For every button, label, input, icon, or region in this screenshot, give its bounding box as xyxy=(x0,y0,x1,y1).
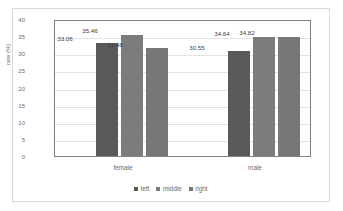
bar-female-middle[interactable] xyxy=(121,35,143,157)
category-label-male: male xyxy=(215,164,295,171)
y-axis-tick: 10 xyxy=(1,120,25,126)
legend-item-middle[interactable]: middle xyxy=(156,185,181,192)
plot-area xyxy=(54,20,311,157)
legend-item-left[interactable]: left xyxy=(134,185,149,192)
legend-label: middle xyxy=(163,185,182,192)
bar-female-left[interactable] xyxy=(96,43,118,156)
legend-label: right xyxy=(195,185,207,192)
y-axis-tick: 20 xyxy=(1,86,25,92)
bar-value-label: 30.55 xyxy=(180,44,214,51)
bar-value-label: 31.48 xyxy=(98,41,132,48)
bar-male-middle[interactable] xyxy=(253,37,275,156)
bar-value-label: 35.46 xyxy=(73,27,107,34)
y-axis-tick: 25 xyxy=(1,68,25,74)
y-axis-tick: 35 xyxy=(1,34,25,40)
bar-value-label: 34.82 xyxy=(230,29,264,36)
legend-swatch-icon xyxy=(156,187,160,191)
chart-legend: left middle right xyxy=(13,185,329,192)
bar-female-right[interactable] xyxy=(146,48,168,156)
y-axis-tick: 15 xyxy=(1,103,25,109)
y-axis-tick: 30 xyxy=(1,51,25,57)
legend-label: left xyxy=(141,185,150,192)
legend-item-right[interactable]: right xyxy=(189,185,208,192)
y-axis-tick: 5 xyxy=(1,137,25,143)
bar-male-left[interactable] xyxy=(228,51,250,156)
chart-frame: rate (%) 40 35 30 25 20 15 10 5 0 33.06 … xyxy=(12,8,330,202)
bar-male-right[interactable] xyxy=(278,37,300,156)
y-axis-tick: 0 xyxy=(1,154,25,160)
y-axis-tick: 40 xyxy=(1,17,25,23)
legend-swatch-icon xyxy=(189,187,193,191)
bar-value-label: 33.06 xyxy=(48,35,82,42)
legend-swatch-icon xyxy=(134,187,138,191)
category-label-female: female xyxy=(83,164,163,171)
